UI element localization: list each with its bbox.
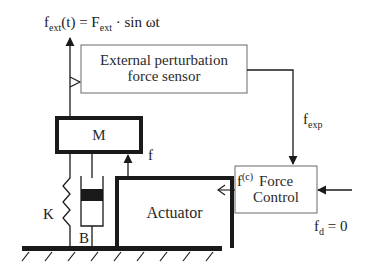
sensor-label-line1: External perturbation	[81, 52, 247, 68]
force-control-line1: Force	[235, 173, 317, 189]
desired-force-label: fd = 0	[314, 219, 347, 237]
f-exp-signal-line	[247, 70, 293, 164]
formula-F-sub: ext	[100, 22, 112, 33]
force-control-line2: Control	[235, 189, 317, 205]
formula-f-sub: ext	[49, 22, 61, 33]
spring-K	[63, 154, 70, 248]
f-exp-label: fexp	[303, 112, 322, 130]
mass-label: M	[57, 127, 141, 143]
f-exp-sub: exp	[308, 119, 322, 130]
force-control-label: Force Control	[235, 173, 317, 205]
f-d-tail: = 0	[324, 218, 347, 234]
ground	[22, 246, 222, 251]
external-force-formula: fext(t) = Fext · sin ωt	[44, 15, 160, 33]
sensor-label: External perturbation force sensor	[81, 52, 247, 84]
formula-mid: (t) = F	[61, 14, 99, 30]
sensor-input-arrowhead	[70, 77, 80, 87]
damper-label: B	[79, 231, 89, 246]
spring-label: K	[43, 207, 54, 222]
ground-hatching	[22, 252, 213, 261]
actuator-label: Actuator	[117, 205, 232, 221]
sensor-label-line2: force sensor	[81, 68, 247, 84]
formula-tail: · sin ωt	[112, 14, 160, 30]
actuator-force-label: f	[148, 148, 153, 163]
